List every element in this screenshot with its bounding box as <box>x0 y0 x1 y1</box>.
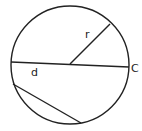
circumference-label: C <box>131 63 139 74</box>
diameter-label: d <box>31 67 38 78</box>
diameter-line <box>11 62 129 67</box>
circle-diagram <box>0 0 142 131</box>
radius-line <box>70 24 110 64</box>
chord-line <box>13 84 81 123</box>
radius-label: r <box>85 29 90 40</box>
